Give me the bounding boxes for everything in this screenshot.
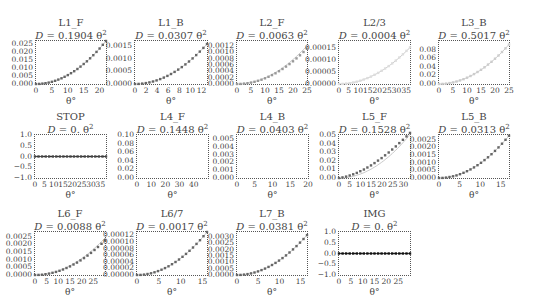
x-tick-label: 10 [63,87,73,95]
panel-title: L7_B [236,208,308,219]
y-tick-label: 0.0 [20,153,32,161]
y-tick-label: 0.0015 [6,248,32,256]
x-tick-label: 12 [197,87,207,95]
y-tick-label: 0.0015 [410,151,436,159]
y-tick-label: −1.0 [14,174,32,182]
y-tick-label: 0.0015 [106,42,132,50]
x-tick-label: 30 [392,87,402,95]
y-tick-label: 0.00015 [305,44,336,52]
x-tick-label: 10 [462,87,472,95]
panel-title: L4_B [236,111,309,122]
x-tick-label: 5 [156,278,161,286]
plot-series [34,231,106,276]
y-tick-label: 0.00010 [305,56,336,64]
x-tick-label: 30 [399,181,409,189]
x-tick-label: 15 [58,181,68,189]
y-tick-label: 0.00 [419,80,436,88]
x-tick-label: 6 [166,87,171,95]
y-tick-label: 0.0000 [106,80,132,88]
panel-title: L2_F [236,17,308,28]
y-tick-label: 0.0000 [410,174,436,182]
y-tick-label: 0.0025 [410,136,436,144]
x-axis-label: θ° [438,96,510,106]
x-tick-label: 0 [437,181,442,189]
x-tick-label: 0 [337,181,342,189]
x-tick-label: 10 [186,87,196,95]
x-tick-label: 0 [337,278,342,286]
y-tick-label: 0.0020 [6,240,32,248]
x-tick-label: 15 [476,87,486,95]
x-tick-label: 5 [50,87,55,95]
x-axis-label: θ° [34,190,107,200]
y-tick-label: 0.0010 [106,55,132,63]
plot-series [438,134,510,179]
chart-panel-l3-b: L3_BD = 0.5017 θ20.000.020.040.060.08051… [438,40,510,85]
panel-title: L1_F [35,17,107,28]
plot-series [338,40,411,85]
y-tick-label: −1.0 [318,271,336,279]
x-tick-label: 20 [68,181,78,189]
x-tick-label: 15 [285,181,295,189]
y-tick-label: −0.5 [318,260,336,268]
x-tick-label: 15 [363,87,373,95]
plot-series [236,231,308,276]
x-tick-label: 20 [288,87,298,95]
chart-panel-l2-f: L2_FD = 0.0063 θ20.00000.00020.00040.000… [236,40,308,85]
y-tick-label: 0.002 [213,158,234,166]
x-tick-label: 10 [358,278,368,286]
y-tick-label: 0.5 [324,239,336,247]
y-tick-label: 0.05 [319,131,336,139]
y-tick-label: 0.00012 [103,231,134,239]
y-tick-label: 0.06 [117,148,134,156]
x-tick-label: 20 [373,87,383,95]
y-tick-label: 1.0 [20,131,32,139]
x-tick-label: 30 [175,181,185,189]
x-tick-label: 10 [49,181,59,189]
x-tick-label: 10 [275,278,285,286]
y-tick-label: 0.0012 [208,42,234,50]
chart-panel-l6-f: L6_FD = 0.0088 θ20.00000.00050.00100.001… [34,231,106,276]
chart-panel-l4-f: L4_FD = 0.1448 θ20.000.020.040.060.080.1… [136,134,209,179]
x-tick-label: 0 [235,87,240,95]
x-tick-label: 5 [249,87,254,95]
plot-series [35,40,107,85]
chart-panel-img: IMGD = 0. θ2−1.0−0.50.00.51.00510152025θ… [338,231,411,276]
y-tick-label: 0.02 [319,157,336,165]
y-tick-label: 0.0005 [6,263,32,271]
plot-series [34,134,107,179]
x-tick-label: 8 [177,87,182,95]
y-tick-label: 0.02 [419,71,436,79]
x-tick-label: 0 [133,87,138,95]
y-tick-label: 0.06 [419,54,436,62]
x-tick-label: 0 [33,181,38,189]
plot-series [136,134,209,179]
y-tick-label: 0.0020 [410,143,436,151]
x-tick-label: 0 [135,278,140,286]
chart-panel-l1-b: L1_BD = 0.0307 θ20.00000.00050.00100.001… [134,40,208,85]
y-tick-label: 0.02 [117,165,134,173]
y-tick-label: 0.5 [20,142,32,150]
y-tick-label: 0.0010 [6,256,32,264]
y-tick-label: 1.0 [324,228,336,236]
chart-panel-l1-f: L1_FD = 0.1904 θ20.0000.0050.0100.0150.0… [35,40,107,85]
x-tick-label: 0 [437,87,442,95]
chart-panel-l2-3: L2/3D = 0.0004 θ20.000000.000050.000100.… [338,40,411,85]
y-tick-label: 0.0000 [6,271,32,279]
x-tick-label: 15 [274,87,284,95]
x-tick-label: 10 [260,87,270,95]
y-tick-label: 0.0 [324,250,336,258]
y-tick-label: 0.005 [213,135,234,143]
x-tick-label: 5 [348,278,353,286]
x-tick-label: 0 [235,181,240,189]
panel-title: L4_F [136,111,209,122]
x-tick-label: 0 [135,181,140,189]
plot-series [134,40,208,85]
x-tick-label: 30 [86,181,96,189]
x-tick-label: 10 [268,181,278,189]
y-tick-label: 0.10 [117,131,134,139]
plot-series [338,134,411,179]
x-tick-label: 10 [54,278,64,286]
panel-title: STOP [34,111,107,122]
y-tick-label: 0.003 [213,151,234,159]
x-axis-label: θ° [338,190,411,200]
